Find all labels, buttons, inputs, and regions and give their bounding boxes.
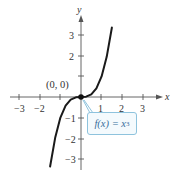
y-axis-arrow-icon (79, 15, 84, 22)
x-tick-label: −2 (34, 103, 45, 114)
x-axis-arrow-icon (156, 95, 163, 100)
y-tick-label: −2 (65, 134, 76, 145)
function-label: f(x) = x (94, 118, 126, 129)
cubic-function-graph: −3 −2 1 2 3 x 3 2 −1 −2 −3 y (0, 0, 178, 178)
y-axis-label: y (76, 4, 82, 15)
function-exponent: 3 (126, 120, 130, 128)
origin-point (78, 94, 84, 100)
y-tick-label: 3 (69, 30, 74, 41)
x-tick-label: −3 (14, 103, 25, 114)
y-tick-label: −3 (65, 154, 76, 165)
x-axis-label: x (164, 91, 170, 102)
origin-point-label: (0, 0) (46, 79, 69, 90)
x-tick-label: 3 (140, 103, 145, 114)
y-tick-label: 2 (69, 51, 74, 62)
y-tick-label: −1 (65, 113, 76, 124)
function-callout: f(x) = x3 (87, 112, 137, 135)
